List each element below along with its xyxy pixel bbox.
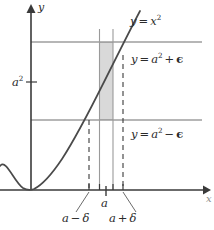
lower-lhs: y (131, 127, 138, 141)
lower-epsilon: ϵ (176, 127, 183, 141)
leader-line-a-minus-delta (76, 192, 89, 212)
upper-equals: = (138, 52, 152, 66)
x-center-label: a (101, 198, 108, 210)
curve-equation-label: y=x2 (130, 14, 161, 27)
lower-exponent: 2 (158, 126, 163, 135)
a-minus-delta-label: a−δ (62, 213, 89, 225)
upper-base: a (151, 52, 158, 66)
upper-epsilon: ϵ (176, 52, 183, 66)
curve-exponent: 2 (157, 13, 162, 22)
a-plus-delta-label: a+δ (109, 213, 136, 225)
a-minus-delta-operator: − (69, 211, 83, 225)
upper-exponent: 2 (158, 51, 163, 60)
epsilon-band-shading (100, 42, 114, 120)
parabola-curve (0, 11, 140, 190)
x-axis-label: x (206, 194, 212, 204)
upper-bound-label: y=a2+ϵ (131, 52, 183, 65)
a-plus-delta-delta: δ (130, 211, 137, 225)
a-minus-delta-delta: δ (83, 211, 90, 225)
lower-base: a (151, 127, 158, 141)
epsilon-delta-figure: y=x2 y=a2+ϵ y=a2−ϵ a2 y x a a−δ a+δ (0, 0, 214, 230)
curve-equals: = (137, 14, 151, 28)
lower-equals: = (138, 127, 152, 141)
upper-operator: + (163, 52, 177, 66)
y-tick-exponent: 2 (19, 74, 24, 83)
lower-bound-label: y=a2−ϵ (131, 127, 183, 140)
y-tick-base: a (12, 75, 19, 89)
y-axis-label: y (38, 2, 44, 13)
a-plus-delta-operator: + (116, 211, 130, 225)
curve-lhs: y (130, 14, 137, 28)
y-axis-arrow-icon (27, 4, 36, 13)
lower-operator: − (163, 127, 177, 141)
a-minus-delta-base: a (62, 211, 69, 225)
y-axis-tick-label: a2 (12, 75, 23, 88)
a-plus-delta-base: a (109, 211, 116, 225)
upper-lhs: y (131, 52, 138, 66)
leader-line-a-plus-delta (123, 192, 136, 212)
